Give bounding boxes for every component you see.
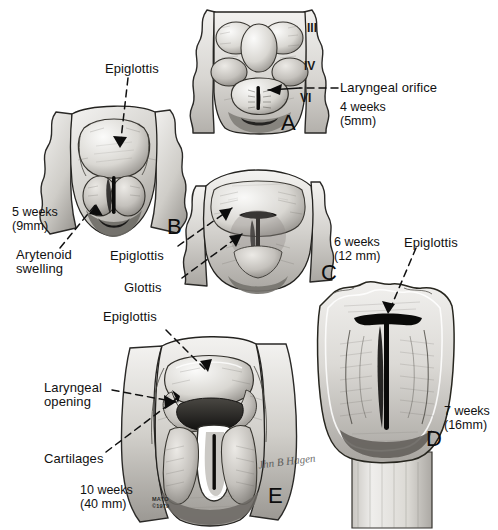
arch-numeral-iii: III xyxy=(307,22,317,34)
label-laryngeal-orifice: Laryngeal orifice xyxy=(340,81,437,95)
label-laryngeal-opening: Laryngeal opening xyxy=(44,381,102,409)
stage-caption-b: 5 weeks (9mm) xyxy=(12,205,58,233)
leader-epiglottis-b xyxy=(120,78,128,148)
leader-lines xyxy=(60,78,416,452)
leader-arytenoid-swelling xyxy=(60,204,96,248)
stage-caption-a: 4 weeks (5mm) xyxy=(340,100,386,128)
stage-caption-e: 10 weeks (40 mm) xyxy=(80,483,133,511)
laryngeal-development-figure: III IV VI Laryngeal orifice 4 weeks (5mm… xyxy=(0,0,498,530)
credit-copyright: ©1979 xyxy=(152,503,169,509)
label-epiglottis-b: Epiglottis xyxy=(105,62,159,76)
panel-letter-d: D xyxy=(426,428,442,450)
leader-glottis xyxy=(182,234,242,278)
stage-caption-c: 6 weeks (12 mm) xyxy=(334,235,381,263)
leader-laryngeal-opening xyxy=(112,390,176,402)
panel-letter-c: C xyxy=(321,262,337,284)
stage-caption-d: 7 weeks (16mm) xyxy=(444,404,490,432)
arch-numeral-vi: VI xyxy=(300,92,311,104)
illustrator-signature: Jhn B Hagen xyxy=(257,452,315,471)
leader-epiglottis-c xyxy=(178,208,232,246)
specimen-b-5-weeks xyxy=(40,106,187,237)
panel-letter-a: A xyxy=(281,112,296,134)
leader-epiglottis-d xyxy=(388,248,416,314)
panel-letter-e: E xyxy=(268,485,283,507)
credit-mayo: MAYO xyxy=(152,496,169,502)
leader-cartilages xyxy=(106,396,180,452)
panel-letter-b: B xyxy=(167,216,182,238)
leader-laryngeal-orifice-solid xyxy=(268,88,300,90)
specimen-c-6-weeks xyxy=(183,170,333,294)
label-epiglottis-e: Epiglottis xyxy=(103,310,157,324)
label-glottis: Glottis xyxy=(124,281,162,295)
arch-numeral-iv: IV xyxy=(304,60,315,72)
leader-epiglottis-e xyxy=(166,330,208,372)
label-epiglottis-d: Epiglottis xyxy=(404,236,458,250)
specimen-d-7-weeks xyxy=(318,282,455,528)
label-cartilages: Cartilages xyxy=(44,452,104,466)
label-epiglottis-c: Epiglottis xyxy=(110,249,164,263)
label-arytenoid-swelling: Arytenoid swelling xyxy=(16,248,72,276)
